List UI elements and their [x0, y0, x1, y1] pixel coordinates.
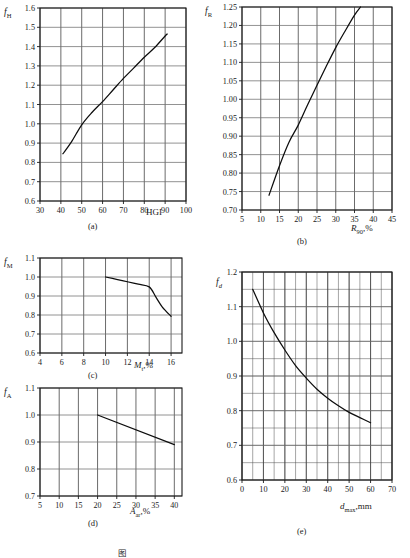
plot-area-d: 5101520253035400.70.80.91.01.1: [0, 380, 196, 530]
svg-text:0.8: 0.8: [25, 311, 35, 320]
svg-text:0.75: 0.75: [223, 188, 237, 197]
panel-caption-d: (d): [88, 518, 98, 528]
chart-panel-c: fM 468101214160.60.70.80.91.01.1 Mt,% (c…: [0, 250, 196, 378]
svg-text:0.9: 0.9: [25, 438, 35, 447]
svg-text:1.5: 1.5: [25, 23, 35, 32]
chart-panel-a: fH 304050607080901000.60.70.80.91.01.11.…: [0, 0, 196, 236]
svg-text:1.3: 1.3: [25, 62, 35, 71]
svg-text:1.1: 1.1: [25, 384, 35, 393]
svg-text:4: 4: [38, 358, 42, 367]
svg-text:0.6: 0.6: [227, 476, 237, 485]
svg-text:1.00: 1.00: [223, 95, 237, 104]
panel-caption-c: (c): [88, 370, 97, 380]
svg-text:40: 40: [170, 501, 178, 510]
svg-text:20: 20: [294, 215, 302, 224]
y-axis-label-b: fR: [205, 7, 212, 18]
svg-text:50: 50: [78, 206, 86, 215]
svg-text:0.7: 0.7: [25, 178, 35, 187]
svg-text:1.0: 1.0: [227, 337, 237, 346]
svg-text:60: 60: [98, 206, 106, 215]
svg-text:90: 90: [161, 206, 169, 215]
svg-text:0: 0: [240, 485, 244, 494]
svg-text:0.6: 0.6: [25, 197, 35, 206]
svg-text:16: 16: [167, 358, 175, 367]
svg-text:0.9: 0.9: [25, 139, 35, 148]
panel-caption-a: (a): [88, 221, 97, 231]
svg-text:15: 15: [74, 501, 82, 510]
svg-text:1.20: 1.20: [223, 21, 237, 30]
svg-text:0.8: 0.8: [25, 465, 35, 474]
x-axis-label-c: Mt,%: [134, 361, 153, 372]
svg-text:0.8: 0.8: [25, 158, 35, 167]
svg-text:10: 10: [55, 501, 63, 510]
svg-text:0.7: 0.7: [25, 492, 35, 501]
svg-text:5: 5: [240, 215, 244, 224]
svg-text:0.95: 0.95: [223, 114, 237, 123]
svg-text:1.10: 1.10: [223, 58, 237, 67]
figure-caption: 图: [118, 546, 127, 558]
chart-panel-d: fA 5101520253035400.70.80.91.01.1 Aar,% …: [0, 380, 196, 530]
svg-text:1.1: 1.1: [25, 254, 35, 263]
svg-text:10: 10: [259, 485, 267, 494]
plot-area-b: 510152025303540450.700.750.800.850.900.9…: [196, 0, 410, 246]
svg-text:0.90: 0.90: [223, 132, 237, 141]
panel-caption-e: (e): [297, 526, 306, 536]
x-axis-label-d: Aar,%: [130, 507, 150, 518]
svg-text:1.0: 1.0: [25, 273, 35, 282]
svg-text:20: 20: [281, 485, 289, 494]
svg-text:5: 5: [38, 501, 42, 510]
svg-text:1.2: 1.2: [227, 268, 237, 277]
svg-text:30: 30: [36, 206, 44, 215]
svg-text:0.9: 0.9: [227, 372, 237, 381]
svg-text:1.4: 1.4: [25, 43, 35, 52]
svg-text:8: 8: [82, 358, 86, 367]
svg-text:1.1: 1.1: [227, 303, 237, 312]
x-axis-label-b: R90,%: [351, 224, 373, 235]
svg-text:0.6: 0.6: [25, 349, 35, 358]
svg-text:100: 100: [180, 206, 192, 215]
panel-caption-b: (b): [297, 236, 307, 246]
svg-text:30: 30: [332, 215, 340, 224]
svg-text:70: 70: [119, 206, 127, 215]
y-axis-label-e: fd: [216, 278, 222, 289]
svg-text:0.8: 0.8: [227, 407, 237, 416]
y-axis-label-a: fH: [4, 8, 11, 19]
svg-text:45: 45: [388, 215, 396, 224]
svg-text:1.1: 1.1: [25, 101, 35, 110]
svg-text:0.80: 0.80: [223, 169, 237, 178]
svg-text:25: 25: [313, 215, 321, 224]
svg-text:10: 10: [102, 358, 110, 367]
plot-area-a: 304050607080901000.60.70.80.91.01.11.21.…: [0, 0, 196, 236]
chart-panel-b: fR 510152025303540450.700.750.800.850.90…: [196, 0, 410, 246]
svg-text:25: 25: [113, 501, 121, 510]
svg-text:50: 50: [345, 485, 353, 494]
svg-text:1.2: 1.2: [25, 81, 35, 90]
svg-text:1.6: 1.6: [25, 4, 35, 13]
svg-text:10: 10: [257, 215, 265, 224]
chart-panel-e: fd 0102030405060700.60.70.80.91.01.11.2 …: [196, 252, 410, 544]
svg-text:1.0: 1.0: [25, 411, 35, 420]
svg-text:60: 60: [366, 485, 374, 494]
svg-text:0.9: 0.9: [25, 292, 35, 301]
svg-text:15: 15: [275, 215, 283, 224]
y-axis-label-d: fA: [4, 388, 11, 399]
svg-text:12: 12: [123, 358, 131, 367]
svg-text:20: 20: [94, 501, 102, 510]
svg-text:70: 70: [388, 485, 396, 494]
x-axis-label-a: HGI: [146, 208, 162, 217]
svg-text:30: 30: [302, 485, 310, 494]
y-axis-label-c: fM: [4, 258, 13, 269]
plot-area-c: 468101214160.60.70.80.91.01.1: [0, 250, 196, 378]
svg-text:1.15: 1.15: [223, 40, 237, 49]
svg-text:6: 6: [60, 358, 64, 367]
svg-text:1.0: 1.0: [25, 120, 35, 129]
x-axis-label-e: dmax,mm: [340, 502, 372, 513]
svg-text:40: 40: [57, 206, 65, 215]
svg-text:0.7: 0.7: [227, 441, 237, 450]
svg-text:0.7: 0.7: [25, 330, 35, 339]
svg-text:1.05: 1.05: [223, 77, 237, 86]
plot-area-e: 0102030405060700.60.70.80.91.01.11.2: [196, 252, 410, 544]
svg-text:40: 40: [324, 485, 332, 494]
svg-text:35: 35: [151, 501, 159, 510]
